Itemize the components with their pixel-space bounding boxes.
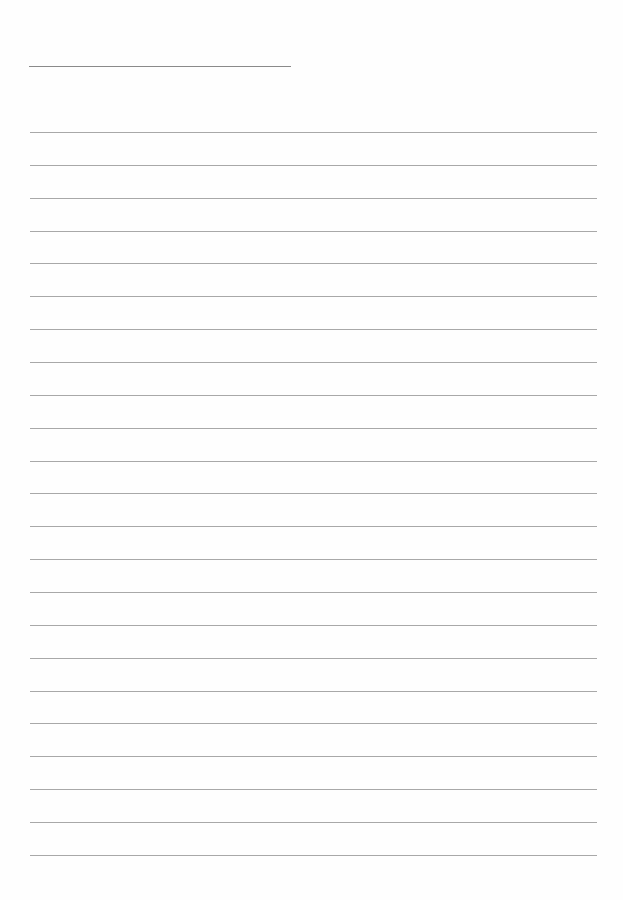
ruled-line [30, 461, 597, 462]
ruled-line [30, 592, 597, 593]
ruled-line [30, 493, 597, 494]
ruled-line [30, 789, 597, 790]
ruled-line [30, 625, 597, 626]
ruled-line [30, 263, 597, 264]
ruled-line [30, 231, 597, 232]
ruled-line [30, 723, 597, 724]
ruled-line [30, 658, 597, 659]
ruled-line [30, 756, 597, 757]
ruled-line [30, 691, 597, 692]
lined-paper-page [0, 0, 623, 900]
ruled-line [30, 198, 597, 199]
ruled-line [30, 296, 597, 297]
ruled-line [30, 165, 597, 166]
ruled-line [30, 428, 597, 429]
ruled-line [30, 329, 597, 330]
title-line [29, 66, 291, 67]
ruled-line [30, 559, 597, 560]
ruled-line [30, 362, 597, 363]
ruled-line [30, 526, 597, 527]
ruled-line [30, 395, 597, 396]
ruled-line [30, 132, 597, 133]
ruled-line [30, 822, 597, 823]
ruled-line [30, 855, 597, 856]
